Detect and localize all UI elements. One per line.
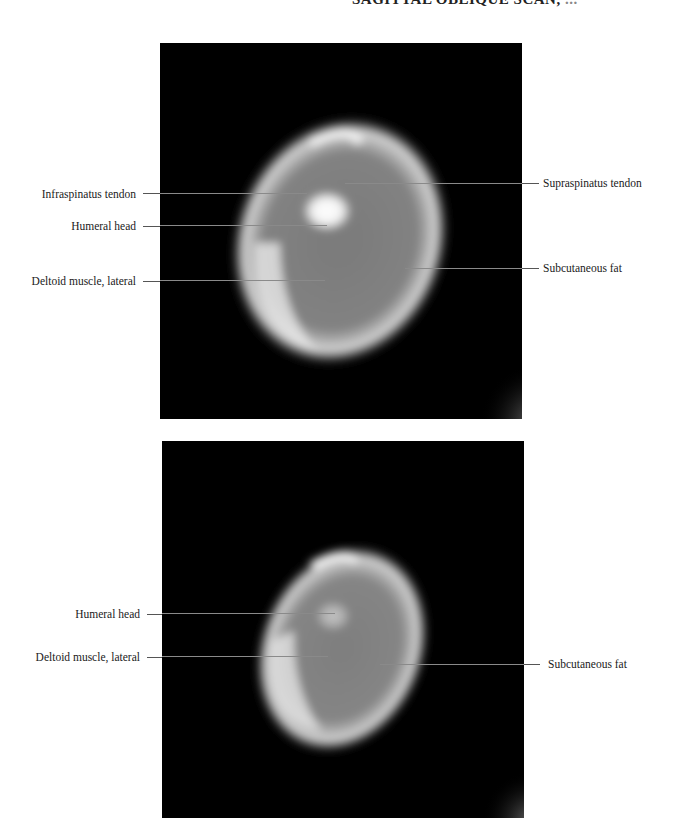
mri-image-top [160,43,522,419]
leader-line [160,280,325,281]
leader-line [143,281,160,282]
leader-line [160,225,327,226]
leader-line [345,183,522,184]
label-humeral-head: Humeral head [75,607,140,621]
label-supraspinatus-tendon: Supraspinatus tendon [543,176,642,190]
label-infraspinatus-tendon: Infraspinatus tendon [42,187,136,201]
header-title-tail: ... [561,0,578,7]
leader-line [522,268,539,269]
leader-line [405,268,522,269]
leader-line [147,657,162,658]
mri-scan-bottom [162,441,524,818]
label-humeral-head: Humeral head [71,219,136,233]
label-subcutaneous-fat: Subcutaneous fat [548,657,627,671]
leader-line [147,614,162,615]
leader-line [524,664,540,665]
page-header: SAGITTAL OBLIQUE SCAN, ... [352,0,578,8]
label-subcutaneous-fat: Subcutaneous fat [543,261,622,275]
leader-line [522,183,539,184]
mri-image-bottom [162,441,524,818]
label-deltoid-muscle-lateral: Deltoid muscle, lateral [36,650,140,664]
label-deltoid-muscle-lateral: Deltoid muscle, lateral [32,274,136,288]
leader-line [143,226,160,227]
leader-line [143,193,160,194]
leader-line [160,193,307,194]
leader-line [162,613,335,614]
leader-line [380,664,524,665]
leader-line [162,656,328,657]
mri-scan-top [160,43,522,419]
header-title: SAGITTAL OBLIQUE SCAN, [352,0,561,7]
